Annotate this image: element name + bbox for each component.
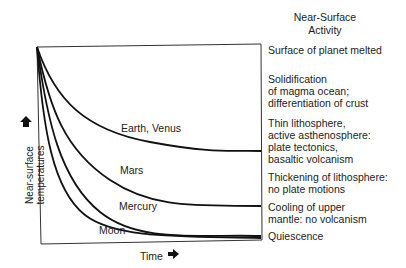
stage-line: Thin lithosphere, (268, 117, 371, 129)
stage-line: Surface of planet melted (268, 44, 382, 56)
activity-header-line1: Near-Surface (280, 11, 370, 24)
y-axis-label-line1: Near-surface (24, 140, 35, 210)
y-axis-label: Near-surface temperatures (24, 140, 54, 210)
stage-cooling-upper-mantle: Cooling of upper mantle: no volcanism (268, 201, 367, 225)
curve-label-earth-venus: Earth, Venus (121, 122, 181, 134)
stage-line: Solidification (268, 73, 368, 85)
stage-quiescence: Quiescence (268, 230, 323, 242)
stage-line: basaltic volcanism (268, 153, 371, 165)
x-axis-label: Time (140, 250, 163, 262)
stage-line: Thickening of lithosphere: (268, 171, 388, 183)
stage-thickening-lithosphere: Thickening of lithosphere: no plate moti… (268, 171, 388, 195)
y-axis-label-line2: temperatures (35, 140, 46, 210)
stage-solidification: Solidification of magma ocean; different… (268, 73, 368, 109)
stage-line: plate tectonics, (268, 141, 371, 153)
plot-frame (37, 44, 262, 244)
stage-surface-melted: Surface of planet melted (268, 44, 382, 56)
arrow-up-icon (20, 116, 32, 127)
stage-line: mantle: no volcanism (268, 213, 367, 225)
stage-line: differentiation of crust (268, 97, 368, 109)
activity-header: Near-Surface Activity (280, 11, 370, 37)
stage-line: active asthenosphere: (268, 129, 371, 141)
planetary-cooling-diagram: Near-Surface Activity Near-surface tempe… (0, 0, 406, 268)
stage-thin-lithosphere: Thin lithosphere, active asthenosphere: … (268, 117, 371, 165)
activity-header-line2: Activity (280, 24, 370, 37)
curve-label-mars: Mars (120, 164, 143, 176)
stage-line: no plate motions (268, 183, 388, 195)
curve-earth-venus (37, 47, 261, 151)
curve-label-mercury: Mercury (119, 200, 157, 212)
stage-line: of magma ocean; (268, 85, 368, 97)
stage-line: Quiescence (268, 230, 323, 242)
stage-line: Cooling of upper (268, 201, 367, 213)
curve-label-moon: Moon (99, 224, 125, 236)
arrow-right-icon (168, 249, 179, 259)
